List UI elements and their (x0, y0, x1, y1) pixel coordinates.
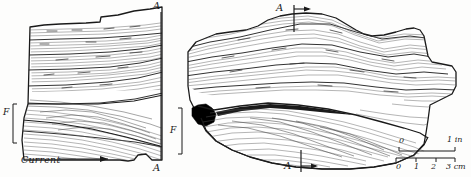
label-current-direction: Current (21, 155, 60, 165)
label-marker-F-right: F (170, 126, 176, 135)
scale-label-cm-0: 0 (396, 163, 401, 171)
right-slab-group (185, 13, 456, 169)
label-section-A-bottom-right: A (284, 161, 291, 171)
right-F-bracket (178, 108, 182, 154)
left-F-bracket (13, 104, 17, 143)
label-section-A-bottom-left: A (153, 163, 160, 173)
label-section-A-top-left: A (153, 1, 160, 11)
label-section-A-top-right: A (276, 3, 283, 13)
scale-label-inch-0: 0 (399, 137, 404, 145)
scale-label-cm-2: 2 (431, 163, 436, 171)
left-slab-group (22, 7, 168, 166)
slab-cross-section-drawing (0, 0, 471, 177)
scale-label-cm-3: 3 cm (446, 163, 466, 171)
figure-root: A A A A F F Current 0 1 in 0 1 2 3 cm (0, 0, 471, 177)
scale-label-inch-1: 1 in (447, 136, 462, 144)
scale-label-cm-1: 1 (414, 163, 419, 171)
label-marker-F-left: F (3, 108, 9, 117)
